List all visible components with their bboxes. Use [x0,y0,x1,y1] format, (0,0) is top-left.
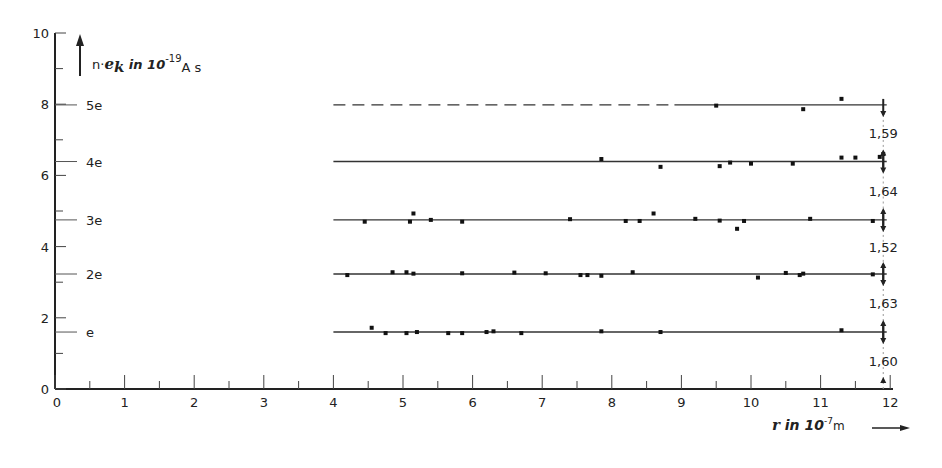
data-point [808,217,812,221]
data-point [370,326,374,330]
data-point [638,219,642,223]
data-point [756,276,760,280]
down-arrow-icon [880,111,886,117]
x-axis-title: r in 10-7m [772,416,845,434]
y-tick-label: 10 [32,26,49,41]
data-point [839,328,843,332]
x-tick-label: 7 [538,395,546,410]
data-point [839,156,843,160]
difference-label: 1,52 [869,240,898,255]
data-point [599,274,603,278]
up-arrow-icon [880,150,886,156]
data-points [345,97,885,335]
data-point [798,273,802,277]
data-point [693,217,697,221]
data-point [853,156,857,160]
y-tick-label: 8 [41,97,49,112]
x-tick-label: 0 [53,395,61,410]
x-tick-label: 11 [812,395,829,410]
data-point [749,162,753,166]
data-point [345,273,349,277]
level-differences: 1,601,631,521,641,59 [869,99,898,389]
y-tick-label: 4 [41,240,49,255]
x-tick-label: 4 [329,395,337,410]
axes [55,33,893,389]
level-label: 2e [86,267,102,282]
data-point [631,270,635,274]
y-tick-label: 0 [41,382,49,397]
x-tick-label: 2 [190,395,198,410]
data-point [415,330,419,334]
up-arrow-icon [880,320,886,326]
x-tick-label: 8 [608,395,616,410]
x-tick-label: 3 [260,395,268,410]
y-ticks: 0246810 [32,26,66,397]
data-point [411,211,415,215]
data-point [871,272,875,276]
data-point [391,270,395,274]
down-arrow-icon [880,280,886,286]
x-arrow-head-icon [900,425,910,431]
x-tick-label: 6 [468,395,476,410]
data-point [408,220,412,224]
x-tick-label: 5 [399,395,407,410]
data-point [659,330,663,334]
data-point [460,271,464,275]
x-ticks: 0123456789101112 [53,375,899,410]
data-point [839,97,843,101]
data-point [429,218,433,222]
up-arrow-icon [880,208,886,214]
down-arrow-icon [880,168,886,174]
data-point [871,219,875,223]
down-arrow-icon [880,226,886,232]
data-point [714,104,718,108]
data-point [659,165,663,169]
data-point [460,331,464,335]
data-point [728,161,732,165]
level-label: e [86,325,94,340]
data-point [460,220,464,224]
data-point [384,331,388,335]
data-point [544,271,548,275]
y-tick-label: 2 [41,311,49,326]
data-point [624,219,628,223]
data-point [718,164,722,168]
y-axis-label: n·ek in 10-19A s [76,34,202,76]
x-axis-label: r in 10-7m [772,416,910,434]
data-point [784,271,788,275]
data-point [446,331,450,335]
difference-label: 1,63 [869,296,898,311]
data-point [578,273,582,277]
data-point [735,227,739,231]
difference-label: 1,59 [869,126,898,141]
up-arrow-icon [880,377,886,383]
millikan-chart: 0123456789101112 0246810 e2e3e4e5e 1,601… [0,0,942,468]
x-tick-label: 9 [677,395,685,410]
data-point [404,331,408,335]
x-tick-label: 10 [743,395,760,410]
data-point [512,271,516,275]
data-point [585,273,589,277]
data-point [599,329,603,333]
difference-label: 1,64 [869,184,898,199]
data-point [742,219,746,223]
data-point [363,220,367,224]
data-point [485,330,489,334]
level-label: 4e [86,155,102,170]
data-point [404,270,408,274]
y-axis-title: n·ek in 10-19A s [92,53,202,76]
charge-levels: e2e3e4e5e [55,98,887,340]
data-point [411,272,415,276]
up-arrow-icon [880,262,886,268]
data-point [801,107,805,111]
y-arrow-head-icon [76,34,84,46]
y-tick-label: 6 [41,168,49,183]
data-point [791,162,795,166]
level-label: 5e [86,98,102,113]
x-tick-label: 12 [882,395,899,410]
data-point [491,329,495,333]
difference-label: 1,60 [869,354,898,369]
x-tick-label: 1 [120,395,128,410]
data-point [652,211,656,215]
down-arrow-icon [880,338,886,344]
